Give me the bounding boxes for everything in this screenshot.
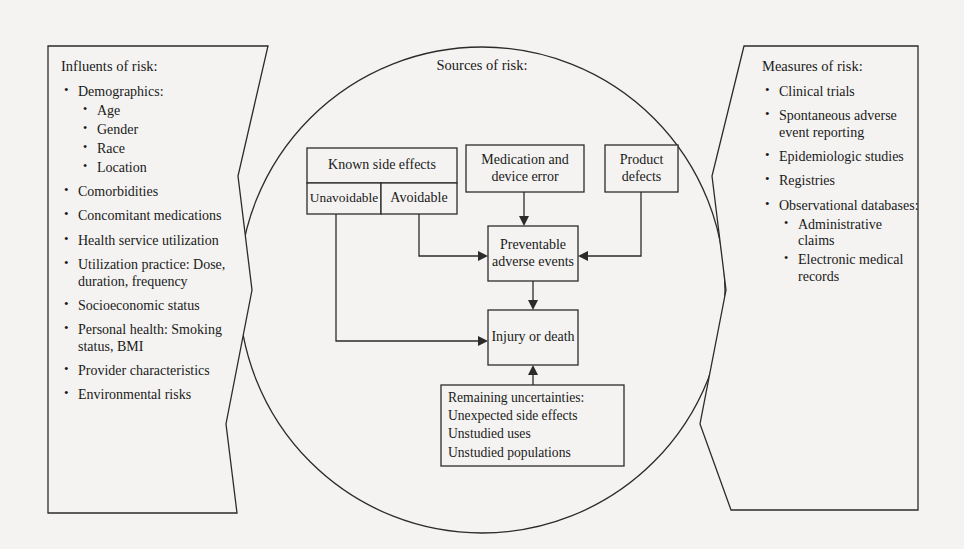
influents-of-risk-panel: Influents of risk: Demographics: Age Gen…: [61, 57, 237, 410]
known-side-effects-box: [307, 148, 457, 183]
measures-of-risk-list: Clinical trials Spontaneous adverse even…: [762, 83, 922, 286]
list-item: Socioeconomic status: [61, 297, 237, 314]
list-item-label: Observational databases:: [779, 198, 919, 213]
avoidable-box: [381, 183, 457, 214]
injury-or-death-box: [488, 310, 578, 365]
list-item: Observational databases: Administrative …: [762, 197, 922, 286]
demographics-sublist: Age Gender Race Location: [78, 103, 237, 176]
list-item: Electronic medical records: [779, 252, 922, 286]
list-item: Health service utilization: [61, 232, 237, 249]
arrowhead-remaining-to-injury: [528, 365, 538, 375]
medication-device-error-box: [466, 145, 584, 192]
list-item: Spontaneous adverse event reporting: [762, 107, 922, 141]
arrowhead-preventable-to-injury: [528, 300, 538, 310]
list-item: Utilization practice: Dose, duration, fr…: [61, 256, 237, 290]
list-item: Comorbidities: [61, 183, 237, 200]
list-item: Gender: [78, 122, 237, 139]
list-item: Location: [78, 160, 237, 177]
unavoidable-box: [307, 183, 381, 214]
remaining-uncertainties-box: [441, 385, 624, 466]
list-item: Administrative claims: [779, 217, 922, 251]
connector-avoidable-to-preventable: [419, 214, 482, 256]
measures-of-risk-title: Measures of risk:: [762, 57, 922, 75]
connector-product-defects-to-preventable: [584, 192, 641, 256]
product-defects-box: [605, 145, 678, 192]
list-item: Clinical trials: [762, 83, 922, 100]
list-item: Concomitant medications: [61, 207, 237, 224]
list-item: Provider characteristics: [61, 362, 237, 379]
list-item: Personal health: Smoking status, BMI: [61, 321, 237, 355]
arrowhead-unavoidable-to-injury: [478, 336, 488, 346]
preventable-adverse-events-box: [488, 226, 578, 281]
list-item: Age: [78, 103, 237, 120]
list-item-label: Demographics:: [78, 84, 164, 99]
list-item: Epidemiologic studies: [762, 148, 922, 165]
figure-canvas: Sources of risk: Influents of risk: Demo…: [0, 0, 964, 549]
influents-of-risk-list: Demographics: Age Gender Race Location C…: [61, 83, 237, 403]
arrowhead-avoidable-to-preventable: [478, 251, 488, 261]
influents-of-risk-title: Influents of risk:: [61, 57, 237, 75]
connector-unavoidable-to-injury: [336, 214, 482, 341]
list-item: Registries: [762, 172, 922, 189]
list-item: Environmental risks: [61, 386, 237, 403]
list-item: Race: [78, 141, 237, 158]
arrowhead-product-to-preventable: [578, 251, 588, 261]
list-item: Demographics: Age Gender Race Location: [61, 83, 237, 176]
measures-of-risk-panel: Measures of risk: Clinical trials Sponta…: [762, 57, 922, 293]
observational-databases-sublist: Administrative claims Electronic medical…: [779, 217, 922, 286]
arrowhead-medication-to-preventable: [519, 216, 529, 226]
